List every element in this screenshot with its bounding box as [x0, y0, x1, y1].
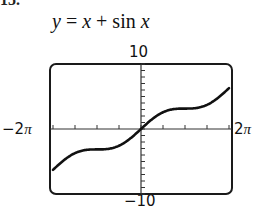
plot-area	[0, 0, 260, 211]
